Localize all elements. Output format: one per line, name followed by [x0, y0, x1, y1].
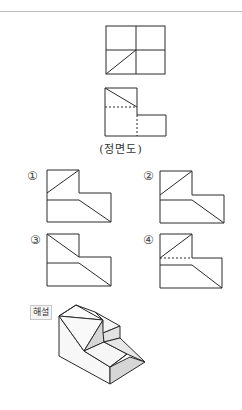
- explanation-badge: 해설: [30, 305, 52, 320]
- option-4-drawing[interactable]: [160, 234, 222, 288]
- option-2-number[interactable]: ②: [143, 169, 154, 183]
- drawing-canvas: [0, 0, 242, 410]
- option-4-number[interactable]: ④: [143, 233, 154, 247]
- isometric-solution-drawing: [59, 305, 145, 384]
- option-3-number[interactable]: ③: [30, 233, 41, 247]
- option-2-drawing[interactable]: [160, 171, 224, 223]
- option-1-drawing[interactable]: [47, 170, 111, 222]
- front-view-drawing: [105, 88, 166, 136]
- top-view-drawing: [106, 26, 165, 74]
- option-3-drawing[interactable]: [47, 234, 111, 286]
- front-view-caption: (정면도): [0, 140, 242, 156]
- option-1-number[interactable]: ①: [27, 169, 38, 183]
